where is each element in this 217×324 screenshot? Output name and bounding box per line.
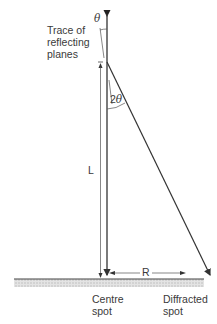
diffracted-spot-label-line2: spot	[163, 305, 183, 317]
trace-label-line3: planes	[47, 48, 78, 60]
screen-plane	[14, 279, 204, 287]
centre-spot-label-line1: Centre	[92, 293, 124, 305]
theta-arc	[100, 29, 107, 30]
diffracted-spot-label-line1: Diffracted	[163, 293, 208, 305]
L-dimension	[98, 62, 103, 278]
L-label: L	[88, 164, 94, 176]
R-label: R	[142, 266, 150, 278]
reflecting-plane-trace-upper	[100, 28, 104, 58]
trace-label-line1: Trace of	[47, 24, 85, 36]
centre-spot-label-line2: spot	[92, 305, 112, 317]
two-theta-label: 2θ	[110, 93, 122, 105]
diffracted-beam	[107, 62, 210, 275]
theta-label: θ	[94, 12, 100, 24]
diffraction-diagram	[0, 0, 217, 324]
trace-label-line2: reflecting	[47, 36, 90, 48]
